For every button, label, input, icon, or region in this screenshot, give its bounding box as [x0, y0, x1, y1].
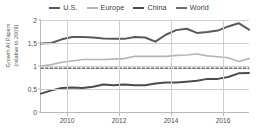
x-gridline	[171, 20, 172, 112]
y-tick-label: 1,5	[28, 40, 37, 47]
x-tick-label: 2012	[112, 117, 127, 124]
y-tick-label: 0,5	[28, 86, 37, 93]
legend-label: Europe	[101, 3, 125, 12]
y-axis-title-line1: Growth AI Papers	[5, 9, 13, 83]
series-line-china	[41, 73, 249, 94]
x-tick-mark	[119, 112, 120, 116]
y-tick-label: 0	[33, 109, 37, 116]
legend-label: World	[190, 3, 209, 12]
x-tick-label: 2016	[216, 117, 231, 124]
y-tick-mark	[38, 20, 41, 21]
y-tick-mark	[38, 43, 41, 44]
y-tick-mark	[38, 89, 41, 90]
y-gridline	[41, 20, 249, 21]
series-line-europe	[41, 54, 249, 66]
x-gridline	[119, 20, 120, 112]
legend-item-world[interactable]: World	[176, 3, 209, 12]
x-tick-mark	[223, 112, 224, 116]
legend-item-china[interactable]: China	[133, 3, 166, 12]
plot-area: 00,511,522010201220142016	[40, 20, 249, 113]
x-tick-label: 2014	[164, 117, 179, 124]
legend-label: China	[147, 3, 166, 12]
ai-papers-growth-chart: U.S.EuropeChinaWorld Growth AI Papers (r…	[0, 0, 258, 140]
y-axis-title: Growth AI Papers (relative to 2009)	[5, 9, 20, 83]
y-gridline	[41, 89, 249, 90]
legend-label: U.S.	[63, 3, 77, 12]
x-tick-mark	[171, 112, 172, 116]
y-tick-mark	[38, 66, 41, 67]
y-tick-label: 1	[33, 63, 37, 70]
legend-swatch-icon	[87, 7, 98, 9]
x-tick-mark	[67, 112, 68, 116]
legend-item-europe[interactable]: Europe	[87, 3, 125, 12]
legend-swatch-icon	[49, 7, 60, 9]
series-line-us	[41, 23, 249, 43]
y-gridline	[41, 43, 249, 44]
y-tick-label: 2	[33, 17, 37, 24]
x-gridline	[223, 20, 224, 112]
legend-swatch-icon	[176, 7, 187, 9]
chart-legend: U.S.EuropeChinaWorld	[0, 3, 258, 12]
legend-swatch-icon	[133, 7, 144, 9]
x-tick-label: 2010	[60, 117, 75, 124]
y-tick-mark	[38, 112, 41, 113]
y-gridline	[41, 66, 249, 67]
x-gridline	[67, 20, 68, 112]
y-axis-title-line2: (relative to 2009)	[13, 9, 21, 83]
legend-item-us[interactable]: U.S.	[49, 3, 77, 12]
